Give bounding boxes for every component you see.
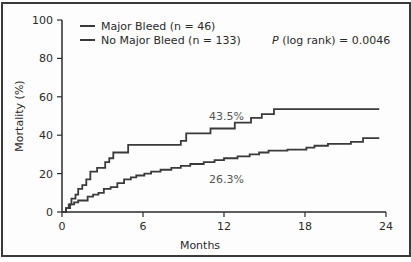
no-major-bleed-final-label: 26.3%	[209, 173, 244, 186]
y-axis-label: Mortality (%)	[13, 80, 26, 151]
x-tick-label: 24	[379, 220, 393, 233]
x-tick-label: 6	[140, 220, 147, 233]
curves	[62, 109, 379, 212]
p-value-text: (log rank) = 0.0046	[279, 34, 391, 47]
x-axis-label: Months	[180, 239, 220, 252]
y-tick-label: 100	[32, 14, 53, 27]
major-bleed-final-label: 43.5%	[209, 110, 244, 123]
p-value-annotation: P (log rank) = 0.0046	[272, 34, 390, 47]
y-tick-label: 20	[39, 168, 53, 181]
x-tick-label: 18	[298, 220, 312, 233]
y-tick-label: 40	[39, 129, 53, 142]
y-tick-label: 80	[39, 52, 53, 65]
y-tick-label: 0	[46, 206, 53, 219]
x-tick-label: 0	[59, 220, 66, 233]
x-tick-label: 12	[217, 220, 231, 233]
y-tick-label: 60	[39, 91, 53, 104]
legend: Major Bleed (n = 46) No Major Bleed (n =…	[80, 20, 241, 47]
legend-label-major-bleed: Major Bleed (n = 46)	[101, 20, 215, 33]
legend-label-no-major-bleed: No Major Bleed (n = 133)	[101, 34, 241, 47]
